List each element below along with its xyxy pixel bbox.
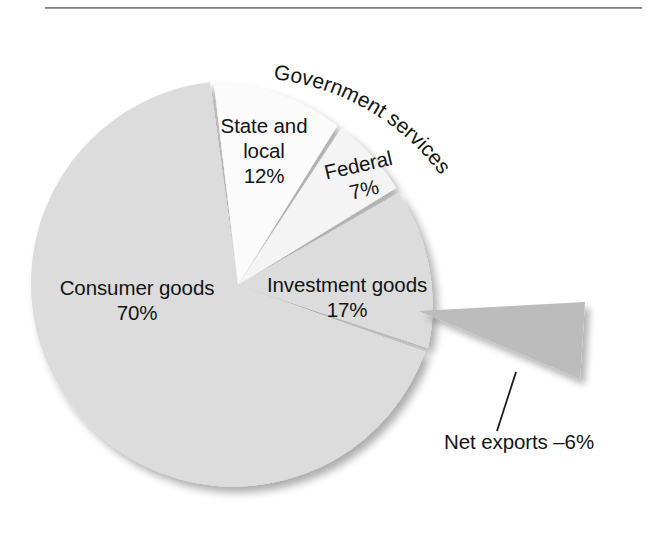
label-state-and-local-line1: State and xyxy=(221,114,308,137)
label-investment-goods: Investment goods 17% xyxy=(252,272,442,322)
net-exports-leader-line xyxy=(497,372,516,431)
pie-chart-figure: Government services Consumer goods 70% S… xyxy=(0,0,650,555)
label-state-and-local-line2: local xyxy=(205,138,323,163)
label-state-and-local-value: 12% xyxy=(205,163,323,188)
label-investment-goods-name: Investment goods xyxy=(267,273,427,296)
pie-slice-net-exports-exploded xyxy=(419,302,585,379)
label-consumer-goods-value: 70% xyxy=(32,300,242,325)
label-state-and-local: State and local 12% xyxy=(205,113,323,188)
label-consumer-goods-name: Consumer goods xyxy=(60,276,215,299)
label-consumer-goods: Consumer goods 70% xyxy=(32,275,242,325)
label-investment-goods-value: 17% xyxy=(252,297,442,322)
label-net-exports: Net exports –6% xyxy=(444,429,614,454)
